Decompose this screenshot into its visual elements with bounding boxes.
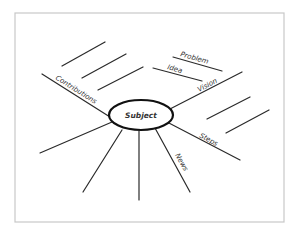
subject-label: Subject [125,111,157,120]
mind-map-diagram: ContributionsVisionProblemIdeaStepsNews … [0,0,299,234]
